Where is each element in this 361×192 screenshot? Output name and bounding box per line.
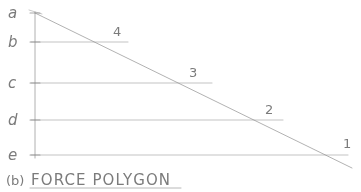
ray-number-2: 2 xyxy=(265,102,273,117)
ray-number-3: 3 xyxy=(189,65,197,80)
axis-label-c: c xyxy=(8,74,17,92)
caption-prefix: (b) xyxy=(6,173,24,188)
axis-label-a: a xyxy=(8,4,17,22)
figure-sheet: abcde4321 (b) FORCE POLYGON xyxy=(0,0,361,192)
ray-number-1: 1 xyxy=(343,136,351,151)
axis-label-b: b xyxy=(8,33,18,51)
handwritten-labels: abcde4321 (b) FORCE POLYGON xyxy=(0,0,361,192)
axis-label-d: d xyxy=(8,111,18,129)
axis-label-e: e xyxy=(8,146,17,164)
ray-number-4: 4 xyxy=(113,24,121,39)
caption-title: FORCE POLYGON xyxy=(31,171,171,189)
